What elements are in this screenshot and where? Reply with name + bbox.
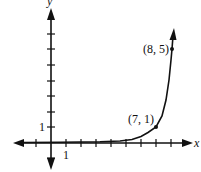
y-axis-label: y: [46, 0, 53, 8]
y-tick-label-1: 1: [39, 120, 45, 134]
point-7-1: [154, 125, 158, 129]
y-axis-up-arrow-icon: [47, 8, 55, 20]
x-tick-label-1: 1: [63, 148, 69, 162]
point-label-8-5: (8, 5): [143, 42, 169, 56]
point-label-7-1: (7, 1): [128, 112, 154, 126]
curve-arrow-icon: [170, 28, 177, 40]
graph: (7, 1) (8, 5) 1 1 x y: [0, 0, 201, 172]
x-axis-label: x: [193, 136, 200, 150]
point-8-5: [170, 47, 174, 51]
x-axis-right-arrow-icon: [182, 139, 193, 147]
y-axis-down-arrow-icon: [47, 158, 55, 170]
